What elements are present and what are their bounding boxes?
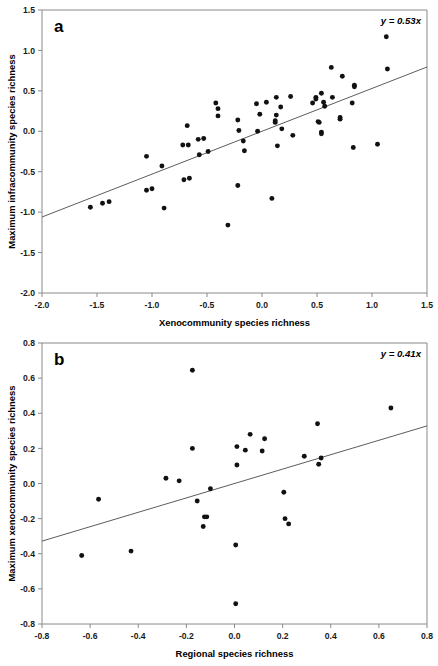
y-axis-tick-label: -0.8 <box>20 619 35 629</box>
data-point <box>107 199 112 204</box>
data-point <box>319 456 324 461</box>
data-point <box>288 94 293 99</box>
x-axis-tick-label: -0.6 <box>83 631 98 641</box>
y-axis-tick-label: -0.6 <box>20 584 35 594</box>
y-axis-tick-label: 0.4 <box>23 408 35 418</box>
y-axis-tick-label: 0.6 <box>23 373 35 383</box>
panel-b-equation: y = 0.41x <box>380 348 422 359</box>
panel-a-axes-frame <box>42 10 427 293</box>
data-point <box>313 96 318 101</box>
x-axis-tick-label: -1.0 <box>145 300 160 310</box>
x-axis-tick-label: 0.8 <box>421 631 433 641</box>
y-axis-tick-label: 0.0 <box>23 126 35 136</box>
data-point <box>201 524 206 529</box>
data-point <box>262 436 267 441</box>
data-point <box>257 112 262 117</box>
data-point <box>206 149 211 154</box>
data-point <box>351 145 356 150</box>
y-axis-tick-label: 1.5 <box>23 5 35 15</box>
data-point <box>204 514 209 519</box>
data-point <box>274 113 279 118</box>
x-axis-tick-label: 1.5 <box>421 300 433 310</box>
x-axis-tick-label: 0.0 <box>256 300 268 310</box>
x-axis-tick-label: 0.2 <box>277 631 289 641</box>
data-point <box>319 91 324 96</box>
panel-a: -2.0-1.5-1.0-0.50.00.51.01.5-2.0-1.5-1.0… <box>0 0 438 333</box>
data-point <box>144 154 149 159</box>
data-point <box>96 497 101 502</box>
data-point <box>235 118 240 123</box>
data-point <box>255 129 260 134</box>
data-point <box>286 521 291 526</box>
data-point <box>233 601 238 606</box>
data-point <box>315 421 320 426</box>
data-point <box>187 176 192 181</box>
data-point <box>181 177 186 182</box>
panel-a-letter: a <box>54 17 64 36</box>
data-point <box>317 120 322 125</box>
panel-b-plot: -0.8-0.6-0.4-0.20.00.20.40.60.8-0.8-0.6-… <box>0 333 438 666</box>
data-point <box>254 101 259 106</box>
data-point <box>260 449 265 454</box>
data-point <box>388 406 393 411</box>
data-point <box>180 143 185 148</box>
data-point <box>190 446 195 451</box>
x-axis-tick-label: -0.2 <box>179 631 194 641</box>
y-axis-tick-label: 0.5 <box>23 86 35 96</box>
data-point <box>195 499 200 504</box>
data-point <box>129 549 134 554</box>
data-point <box>340 74 345 79</box>
x-axis-tick-label: -0.5 <box>200 300 215 310</box>
data-point <box>100 201 105 206</box>
data-point <box>159 164 164 169</box>
data-point <box>279 126 284 131</box>
panel-b-letter: b <box>54 350 64 369</box>
panel-a-x-axis-title: Xenocommunity species richness <box>159 317 310 328</box>
data-point <box>269 196 274 201</box>
x-axis-tick-label: -0.8 <box>35 631 50 641</box>
data-point <box>352 84 357 89</box>
y-axis-tick-label: -2.0 <box>20 288 35 298</box>
data-point-group <box>88 34 390 227</box>
data-point <box>274 95 279 100</box>
panel-a-y-axis-title: Maximum infracommunity species richness <box>6 54 17 248</box>
data-point <box>216 113 221 118</box>
data-point <box>241 139 246 144</box>
data-point <box>375 142 380 147</box>
panel-b-regression-line <box>42 426 427 541</box>
data-point <box>201 136 206 141</box>
data-point <box>278 105 283 110</box>
panel-a-plot: -2.0-1.5-1.0-0.50.00.51.01.5-2.0-1.5-1.0… <box>0 0 438 333</box>
scatter-figure: -2.0-1.5-1.0-0.50.00.51.01.5-2.0-1.5-1.0… <box>0 0 438 666</box>
x-axis-tick-label: 0.5 <box>311 300 323 310</box>
x-axis-tick-label: 0.6 <box>373 631 385 641</box>
panel-b-x-axis-title: Regional species richness <box>176 648 294 659</box>
data-point <box>234 444 239 449</box>
data-point <box>338 117 343 122</box>
y-axis-tick-label: -0.4 <box>20 549 35 559</box>
data-point <box>225 223 230 228</box>
x-axis-tick-label: 1.0 <box>366 300 378 310</box>
data-point <box>233 543 238 548</box>
data-point <box>329 65 334 70</box>
data-point <box>350 101 355 106</box>
data-point <box>163 476 168 481</box>
data-point <box>322 104 327 109</box>
y-axis-tick-label: 0.0 <box>23 479 35 489</box>
data-point <box>316 462 321 467</box>
data-point-group <box>79 368 393 606</box>
y-axis-tick-label: -1.5 <box>20 248 35 258</box>
data-point <box>384 34 389 39</box>
data-point <box>281 490 286 495</box>
data-point <box>186 143 191 148</box>
y-axis-tick-label: -0.2 <box>20 514 35 524</box>
panel-a-regression-line <box>42 67 427 217</box>
data-point <box>197 152 202 157</box>
data-point <box>248 432 253 437</box>
data-point <box>242 148 247 153</box>
data-point <box>190 368 195 373</box>
x-axis-tick-label: -2.0 <box>35 300 50 310</box>
panel-a-equation: y = 0.53x <box>380 15 422 26</box>
data-point <box>385 67 390 72</box>
x-axis-tick-label: 0.0 <box>229 631 241 641</box>
